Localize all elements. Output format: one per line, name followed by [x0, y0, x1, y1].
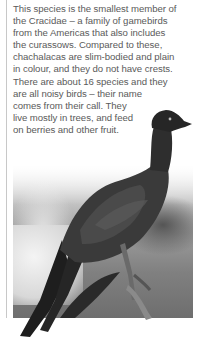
paragraph-line: This species is the smallest member of	[13, 3, 195, 15]
paragraph-line: on berries and other fruit.	[13, 124, 195, 136]
paragraph-line: in colour, and they do not have crests.	[13, 63, 195, 75]
paragraph-line: from the Americas that also includes	[13, 27, 195, 39]
paragraph-line: live mostly in trees, and feed	[13, 112, 195, 124]
paragraph-line: the curassows. Compared to these,	[13, 39, 195, 51]
paragraph-line: There are about 16 species and they	[13, 76, 195, 88]
paragraph-line: the Cracidae – a family of gamebirds	[13, 15, 195, 27]
paragraph-line: chachalacas are slim-bodied and plain	[13, 51, 195, 63]
paragraph-line: comes from their call. They	[13, 100, 195, 112]
paragraph-line: are all noisy birds – their name	[13, 88, 195, 100]
body-paragraph: This species is the smallest member of t…	[13, 3, 195, 136]
